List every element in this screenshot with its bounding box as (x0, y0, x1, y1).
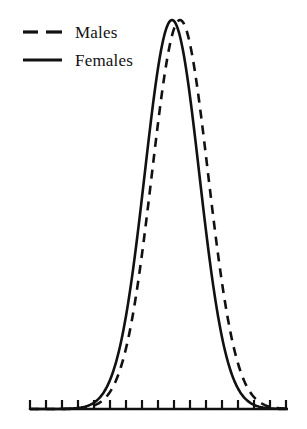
legend-label-females: Females (75, 52, 133, 69)
curve-females (30, 20, 286, 409)
curve-males (30, 20, 286, 409)
chart-legend: Males Females (22, 18, 172, 74)
legend-entry-females: Females (22, 46, 172, 74)
legend-label-males: Males (75, 24, 118, 41)
solid-line-icon (22, 53, 68, 67)
chart-container: Males Females (0, 0, 307, 429)
dashed-line-icon (22, 25, 68, 39)
legend-entry-males: Males (22, 18, 172, 46)
